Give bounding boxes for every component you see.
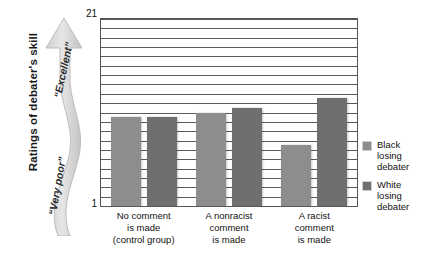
x-axis-category-labels: No commentis made(control group)A nonrac… [100,210,358,258]
x-axis-category-label: A racistcommentis made [272,210,357,246]
bar [281,145,311,206]
legend: BlacklosingdebaterWhitelosingdebater [362,139,434,219]
legend-label-line: debater [377,161,409,172]
bar [196,113,226,207]
legend-swatch-icon [362,141,372,151]
legend-item-label: Blacklosingdebater [377,139,409,172]
legend-swatch-icon [362,181,372,191]
category-label-line: is made [272,234,357,246]
x-axis-category-label: No commentis made(control group) [101,210,186,246]
bar [232,108,262,206]
legend-label-line: losing [377,150,409,161]
bar-series-container [101,19,357,206]
legend-label-line: debater [377,201,409,212]
x-axis-category-label: A nonracistcommentis made [186,210,271,246]
legend-label-line: losing [377,190,409,201]
y-tick-top: 21 [75,8,97,19]
legend-label-line: White [377,179,409,190]
category-label-line: is made [101,222,186,234]
category-label-line: comment [186,222,271,234]
category-label-line: (control group) [101,234,186,246]
bar [317,98,347,206]
plot-area [100,18,358,207]
gridline [101,206,357,207]
category-label-line: A nonracist [186,210,271,222]
category-label-line: is made [186,234,271,246]
chart-figure: Ratings of debater's skill “Excellent” “… [0,0,436,260]
bar [147,117,177,206]
legend-item[interactable]: Whitelosingdebater [362,179,434,212]
category-label-line: No comment [101,210,186,222]
y-tick-bottom: 1 [75,198,97,209]
legend-item-label: Whitelosingdebater [377,179,409,212]
bar [111,117,141,206]
legend-item[interactable]: Blacklosingdebater [362,139,434,172]
category-label-line: A racist [272,210,357,222]
category-label-line: comment [272,222,357,234]
legend-label-line: Black [377,139,409,150]
